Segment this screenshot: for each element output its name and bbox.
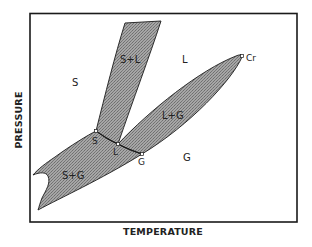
- label-liquid: L: [182, 54, 188, 65]
- label-point-solid: S: [92, 136, 98, 146]
- label-liquid-gas: L+G: [162, 110, 184, 121]
- label-point-liquid: L: [113, 147, 118, 157]
- label-critical-point: Cr: [246, 53, 256, 63]
- label-gas: G: [183, 152, 191, 163]
- x-axis-label: TEMPERATURE: [123, 226, 203, 237]
- point-solid-marker: [95, 130, 98, 133]
- label-point-gas: G: [138, 157, 145, 167]
- label-solid: S: [72, 77, 78, 88]
- label-solid-gas: S+G: [62, 170, 84, 181]
- point-liquid-marker: [117, 143, 120, 146]
- label-solid-liquid: S+L: [120, 54, 141, 65]
- point-gas-marker: [141, 153, 144, 156]
- phase-diagram: S S+L L L+G G S+G S L G Cr TEMPERATURE P…: [0, 0, 312, 247]
- critical-point-marker: [241, 55, 244, 58]
- y-axis-label: PRESSURE: [13, 91, 24, 148]
